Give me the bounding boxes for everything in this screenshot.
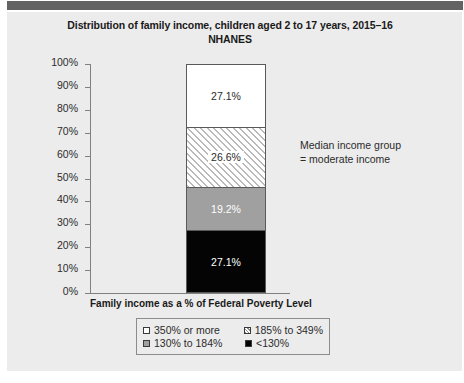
white-swatch-icon — [143, 327, 150, 334]
y-tick-label-80: 80% — [57, 102, 78, 114]
legend-label: 130% to 184% — [154, 337, 222, 349]
chart-title-line-1: Distribution of family income, children … — [67, 19, 392, 31]
plot-area: 100% 90% 80% 70% 60% 50% 40% 30% 20% 10%… — [90, 64, 290, 293]
annotation-line-1: Median income group — [300, 138, 401, 152]
bar-segment-under-130[interactable]: 27.1% — [187, 230, 265, 292]
legend-item-185-to-349[interactable]: 185% to 349% — [244, 324, 323, 336]
y-axis-line — [90, 64, 91, 293]
y-tick-0: 0% — [85, 293, 90, 294]
bar-segment-label: 27.1% — [211, 90, 241, 102]
x-axis-label: Family income as a % of Federal Poverty … — [90, 298, 290, 309]
y-tick-10: 10% — [85, 270, 90, 271]
y-tick-20: 20% — [85, 247, 90, 248]
y-tick-label-60: 60% — [57, 148, 78, 160]
y-tick-label-70: 70% — [57, 125, 78, 137]
y-tick-50: 50% — [85, 179, 90, 180]
y-tick-30: 30% — [85, 224, 90, 225]
y-tick-label-40: 40% — [57, 193, 78, 205]
legend-row: 130% to 184% <130% — [143, 337, 323, 349]
chart-title-line-2: NHANES — [20, 32, 440, 46]
legend-item-130-to-184[interactable]: 130% to 184% — [143, 337, 245, 349]
bar-segment-label: 27.1% — [211, 256, 241, 268]
black-swatch-icon — [245, 340, 252, 347]
y-tick-label-10: 10% — [57, 262, 78, 274]
median-income-annotation: Median income group = moderate income — [300, 138, 401, 166]
bar-segment-350-or-more[interactable]: 27.1% — [187, 65, 265, 127]
annotation-line-2: = moderate income — [300, 152, 401, 166]
chart-title: Distribution of family income, children … — [20, 18, 440, 46]
y-tick-60: 60% — [85, 156, 90, 157]
gray-swatch-icon — [143, 340, 150, 347]
hatched-swatch-icon — [244, 327, 251, 334]
bar-segment-label: 19.2% — [211, 203, 241, 215]
y-tick-label-100: 100% — [51, 56, 78, 68]
y-tick-80: 80% — [85, 110, 90, 111]
legend-label: <130% — [256, 337, 289, 349]
legend-row: 350% or more 185% to 349% — [143, 324, 323, 336]
x-axis-line — [90, 293, 290, 294]
y-tick-40: 40% — [85, 201, 90, 202]
legend-label: 350% or more — [154, 324, 220, 336]
legend-label: 185% to 349% — [255, 324, 323, 336]
top-bar — [7, 1, 463, 10]
bar-segment-130-to-184[interactable]: 19.2% — [187, 187, 265, 231]
y-tick-90: 90% — [85, 87, 90, 88]
y-tick-label-30: 30% — [57, 216, 78, 228]
legend-item-350-or-more[interactable]: 350% or more — [143, 324, 244, 336]
legend: 350% or more 185% to 349% 130% to 184% <… — [136, 318, 330, 355]
y-tick-label-50: 50% — [57, 171, 78, 183]
chart-page: Distribution of family income, children … — [0, 0, 464, 383]
y-tick-label-0: 0% — [63, 285, 78, 297]
legend-item-under-130[interactable]: <130% — [245, 337, 289, 349]
bar-segment-label: 26.6% — [208, 151, 244, 163]
y-tick-label-20: 20% — [57, 239, 78, 251]
stacked-bar[interactable]: 27.1% 26.6% 19.2% 27.1% — [186, 64, 266, 293]
bar-segment-185-to-349[interactable]: 26.6% — [187, 127, 265, 187]
y-tick-100: 100% — [85, 64, 90, 65]
y-tick-label-90: 90% — [57, 79, 78, 91]
y-tick-70: 70% — [85, 133, 90, 134]
